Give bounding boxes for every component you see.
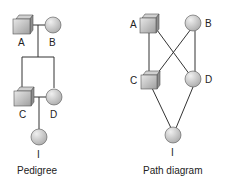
path-label-d: D xyxy=(205,74,212,85)
pedigree-caption: Pedigree xyxy=(17,165,57,176)
pedigree-node-i xyxy=(31,129,47,145)
pedigree-label-i: I xyxy=(37,149,40,160)
diagram-canvas: A B C D I Pedigree xyxy=(0,0,226,184)
path-node-c xyxy=(141,71,160,89)
pedigree-label-b: B xyxy=(49,37,56,48)
path-label-i: I xyxy=(171,147,174,158)
path-node-b xyxy=(185,15,201,31)
pedigree-label-a: A xyxy=(18,37,25,48)
pedigree-label-d: D xyxy=(50,109,57,120)
pedigree-node-c xyxy=(14,87,34,106)
path-label-c: C xyxy=(130,75,137,86)
pedigree: A B C D I Pedigree xyxy=(13,15,62,176)
pedigree-node-d xyxy=(46,89,62,105)
path-node-d xyxy=(185,71,201,87)
path-label-a: A xyxy=(130,19,137,30)
path-label-b: B xyxy=(205,18,212,29)
path-node-a xyxy=(140,14,159,33)
path-node-i xyxy=(165,127,181,143)
path-diagram-caption: Path diagram xyxy=(143,165,202,176)
pedigree-label-c: C xyxy=(19,109,26,120)
path-diagram: A B C D I Path diagram xyxy=(130,14,212,176)
pedigree-node-a xyxy=(13,15,33,34)
pedigree-node-b xyxy=(45,17,61,33)
